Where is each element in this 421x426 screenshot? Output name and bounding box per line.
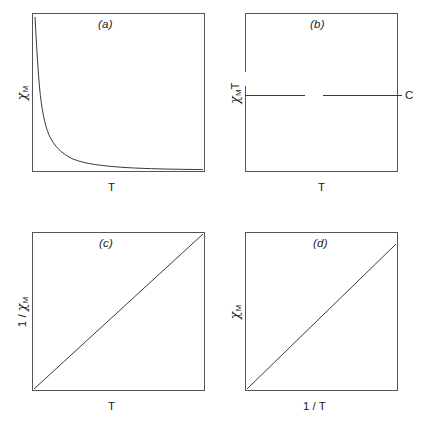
- figure-canvas: (a) T χM (b) C T χMT (c): [0, 0, 421, 426]
- panel-b-ylabel-chi: χ: [227, 96, 242, 104]
- panel-d-ylabel-chi: χ: [227, 312, 242, 320]
- panel-b-frame-left-upper: [245, 13, 246, 72]
- panel-c-line: [33, 233, 204, 390]
- panel-b-xlabel: T: [318, 181, 325, 193]
- panel-b-frame-bottom: [245, 171, 398, 172]
- panel-b-frame-left-lower: [245, 86, 246, 172]
- panel-c-xlabel: T: [108, 400, 115, 412]
- panel-d-ylabel-sub: M: [234, 305, 243, 312]
- panel-b-ylabel-sub: M: [234, 89, 243, 96]
- panel-b-constant-tick: [397, 95, 402, 96]
- panel-d-line: [246, 233, 397, 390]
- panel-d-xlabel: 1 / T: [303, 400, 326, 412]
- panel-b-label: (b): [310, 18, 325, 30]
- panel-c-ylabel: 1 / χM: [14, 286, 30, 338]
- panel-b-ylabel-tail: T: [229, 82, 241, 89]
- panel-a-ylabel: χM: [14, 73, 30, 113]
- panel-b-constant-line-left: [246, 95, 305, 96]
- panel-c-ylabel-prefix: 1 /: [16, 311, 28, 327]
- panel-a-ylabel-chi: χ: [14, 93, 29, 101]
- panel-b-constant-line-right: [323, 95, 397, 96]
- panel-b-constant-label: C: [405, 89, 413, 101]
- panel-a-xlabel: T: [108, 181, 115, 193]
- panel-b-frame-top: [245, 13, 398, 14]
- panel-c-ylabel-sub: M: [21, 297, 30, 304]
- panel-b-ylabel: χMT: [227, 73, 243, 113]
- panel-a-ylabel-sub: M: [21, 86, 30, 93]
- panel-a-curve: [33, 14, 204, 171]
- panel-b-frame-right: [397, 13, 398, 172]
- panel-d-ylabel: χM: [227, 292, 243, 332]
- panel-c-ylabel-chi: χ: [14, 304, 29, 312]
